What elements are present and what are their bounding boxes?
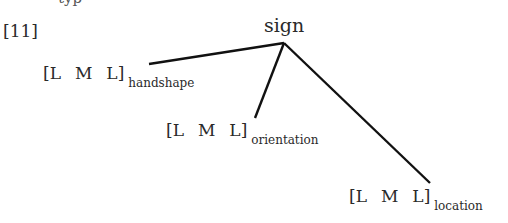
segment-l1: [L	[349, 186, 367, 206]
node-orientation: [LML]orientation	[166, 120, 318, 140]
segment-m: M	[381, 186, 398, 206]
subscript-orientation: orientation	[251, 133, 318, 147]
branch-orientation	[255, 43, 284, 118]
node-location: [LML]location	[349, 186, 483, 206]
root-node-sign: sign	[264, 14, 304, 36]
branch-location	[284, 43, 430, 183]
example-number: [11]	[3, 21, 38, 41]
segment-l2: L]	[106, 63, 124, 83]
subscript-handshape: handshape	[128, 76, 194, 90]
segment-l2: L]	[229, 120, 247, 140]
segment-m: M	[198, 120, 215, 140]
subscript-location: location	[434, 199, 483, 213]
segment-m: M	[75, 63, 92, 83]
segment-l2: L]	[412, 186, 430, 206]
branch-handshape	[149, 43, 284, 64]
node-handshape: [LML]handshape	[43, 63, 194, 83]
segment-l1: [L	[166, 120, 184, 140]
segment-l1: [L	[43, 63, 61, 83]
